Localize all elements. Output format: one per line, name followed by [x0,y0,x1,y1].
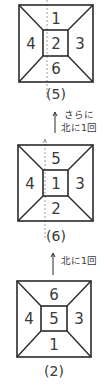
face-left: 4 [25,175,35,193]
arrow-note-line2: 北に1回 [61,122,97,133]
die-net-2: 5 1 4 3 2 (6) [18,139,93,244]
face-left: 4 [24,310,34,328]
face-left: 4 [26,35,36,53]
dice-rotation-diagram: 1 2 4 3 6 (5) さらに 北に1回 5 1 4 3 2 (6) 北に1… [0,0,105,388]
face-center: 2 [51,35,61,53]
face-center: 1 [51,175,61,193]
arrow-note-line1: 北に1回 [61,255,97,266]
face-bottom: 1 [49,336,59,354]
face-right: 3 [74,310,84,328]
face-top: 1 [51,10,61,28]
north-arrow-2: 北に1回 [51,253,97,275]
face-center: 5 [49,310,59,328]
north-arrow-1: さらに 北に1回 [53,109,97,133]
die-caption: (5) [46,86,66,102]
face-top: 6 [49,286,59,304]
die-net-3: 6 5 4 3 1 (2) [17,281,91,379]
face-top: 5 [51,150,61,168]
face-bottom: 6 [51,60,61,78]
die-caption: (6) [46,228,66,244]
die-caption: (2) [44,363,64,379]
face-right: 3 [75,35,85,53]
arrow-note-line1: さらに [64,109,94,120]
die-net-1: 1 2 4 3 6 (5) [19,0,93,102]
face-right: 3 [75,175,85,193]
face-bottom: 2 [51,200,61,218]
